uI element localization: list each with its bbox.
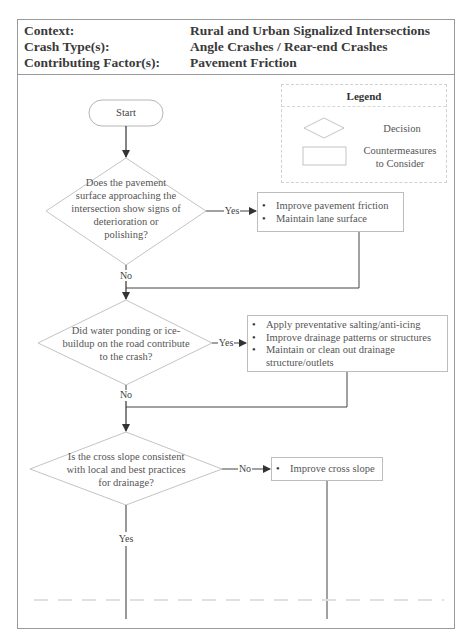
countermeasure-item: Maintain or clean out drainage structure… [248, 344, 416, 369]
decision-1-no-label: No [116, 270, 136, 282]
decision-3-yes-label: Yes [114, 533, 138, 545]
decision-1-yes-label: Yes [222, 205, 242, 217]
countermeasure-box-1: Improve pavement friction Maintain lane … [257, 192, 404, 232]
decision-1-text: Does the pavement surface approaching th… [56, 176, 196, 241]
decision-2-text: Did water ponding or ice- buildup on the… [41, 324, 211, 363]
start-label: Start [89, 107, 163, 119]
legend-countermeasure-label: Countermeasures to Consider [354, 144, 446, 170]
countermeasure-item: Improve drainage patterns or structures [248, 332, 447, 345]
countermeasure-box-3: Improve cross slope [271, 457, 383, 481]
legend-decision-diamond-icon [304, 118, 344, 138]
decision-2-yes-label: Yes [216, 337, 236, 349]
decision-2-no-label: No [116, 389, 136, 401]
countermeasure-box-2: Apply preventative salting/anti-icing Im… [247, 315, 448, 372]
legend-decision-label: Decision [362, 122, 442, 135]
legend-countermeasure-box-icon [303, 147, 346, 165]
countermeasure-item: Maintain lane surface [258, 213, 403, 226]
decision-3-no-label: No [236, 463, 254, 475]
countermeasure-item: Improve cross slope [272, 463, 382, 476]
decision-3-text: Is the cross slope consistent with local… [41, 450, 211, 489]
countermeasure-item: Improve pavement friction [258, 200, 403, 213]
countermeasure-item: Apply preventative salting/anti-icing [248, 319, 447, 332]
legend: Legend Decision Countermeasures to Consi… [281, 84, 447, 183]
